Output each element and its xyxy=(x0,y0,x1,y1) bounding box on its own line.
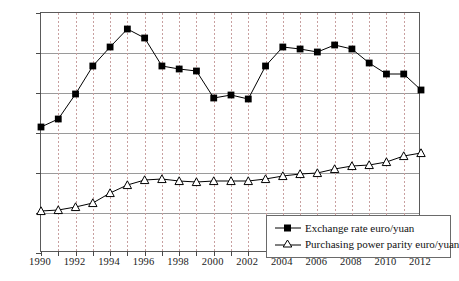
chart-legend: Exchange rate euro/yuan Purchasing power… xyxy=(266,215,451,258)
data-point-filled-square xyxy=(124,26,131,33)
data-point-filled-square xyxy=(38,124,45,131)
x-axis-tick-label: 1996 xyxy=(133,256,155,267)
data-point-filled-square xyxy=(55,116,62,123)
open-triangle-marker-icon xyxy=(273,237,303,251)
data-point-filled-square xyxy=(262,63,269,70)
data-point-filled-square xyxy=(349,46,356,53)
data-point-filled-square xyxy=(141,35,148,42)
x-axis-tick-label: 1998 xyxy=(167,256,189,267)
x-axis-tick-label: 2000 xyxy=(202,256,224,267)
data-point-filled-square xyxy=(72,91,79,98)
x-axis-tick-label: 1994 xyxy=(98,256,120,267)
series-exchange-rate xyxy=(38,26,425,131)
filled-square-marker-icon xyxy=(273,221,303,235)
data-point-filled-square xyxy=(383,71,390,78)
data-point-open-triangle xyxy=(123,181,131,189)
data-point-filled-square xyxy=(297,46,304,53)
legend-item-exchange-rate: Exchange rate euro/yuan xyxy=(273,220,444,236)
data-point-filled-square xyxy=(159,63,166,70)
x-axis-tick-label: 1990 xyxy=(29,256,51,267)
data-point-filled-square xyxy=(366,60,373,67)
data-point-filled-square xyxy=(228,92,235,99)
data-point-filled-square xyxy=(210,95,217,102)
data-point-open-triangle xyxy=(106,189,114,197)
data-point-open-triangle xyxy=(89,199,97,207)
x-axis-tick-label: 1992 xyxy=(64,256,86,267)
series-ppp xyxy=(37,149,425,215)
legend-label-ppp: Purchasing power parity euro/yuan xyxy=(303,238,459,250)
data-point-open-triangle xyxy=(417,149,425,157)
data-point-filled-square xyxy=(245,96,252,103)
data-point-filled-square xyxy=(400,71,407,78)
data-point-open-triangle xyxy=(382,158,390,166)
data-point-filled-square xyxy=(193,68,200,75)
data-point-filled-square xyxy=(418,87,425,94)
data-point-filled-square xyxy=(89,63,96,70)
legend-label-exchange-rate: Exchange rate euro/yuan xyxy=(303,222,414,234)
data-point-filled-square xyxy=(279,44,286,51)
data-point-filled-square xyxy=(331,42,338,49)
series-line xyxy=(41,29,421,127)
data-point-filled-square xyxy=(314,49,321,56)
legend-item-ppp: Purchasing power parity euro/yuan xyxy=(273,236,444,252)
x-axis-tick-label: 2002 xyxy=(236,256,258,267)
data-point-filled-square xyxy=(107,44,114,51)
plot-area: Exchange rate euro/yuan Purchasing power… xyxy=(40,12,420,252)
data-point-filled-square xyxy=(176,66,183,73)
